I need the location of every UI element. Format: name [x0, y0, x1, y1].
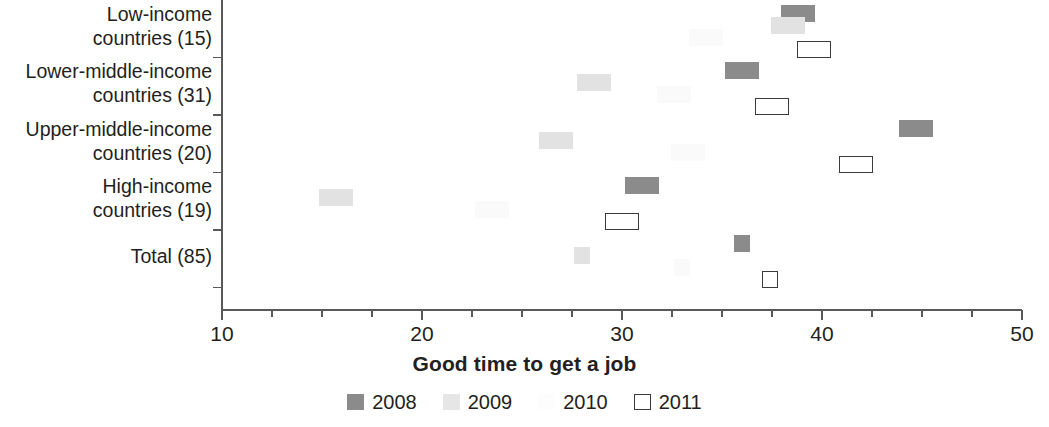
y-axis-tick: [213, 114, 222, 116]
category-label-line: countries (20): [0, 141, 212, 165]
x-axis-major-tick: [821, 310, 822, 320]
x-axis-minor-tick: [771, 310, 772, 317]
y-axis-tick: [213, 57, 222, 59]
legend-label: 2010: [563, 392, 608, 412]
category-label: High-incomecountries (19): [0, 174, 212, 222]
data-point-2008: [734, 235, 750, 252]
x-axis-tick-label: 50: [1010, 322, 1033, 346]
category-label: Total (85): [0, 244, 212, 268]
data-point-2009: [319, 189, 353, 206]
data-point-2010: [671, 144, 705, 161]
data-point-2009: [577, 74, 611, 91]
y-axis-tick: [213, 229, 222, 231]
category-label-line: countries (19): [0, 198, 212, 222]
data-point-2008: [725, 62, 759, 79]
data-point-2010: [475, 201, 509, 218]
legend-label: 2009: [468, 392, 513, 412]
data-point-2011: [762, 271, 778, 288]
data-point-2009: [574, 247, 590, 264]
data-point-2011: [839, 156, 873, 173]
legend-swatch-icon: [538, 394, 555, 410]
data-point-2011: [755, 98, 789, 115]
category-label-line: countries (15): [0, 26, 212, 50]
legend-label: 2011: [659, 392, 702, 412]
legend-item-2011[interactable]: 2011: [634, 392, 702, 412]
x-axis-tick-label: 30: [610, 322, 633, 346]
category-label-line: Lower-middle-income: [0, 59, 212, 83]
x-axis-major-tick: [221, 310, 222, 320]
x-axis-minor-tick: [571, 310, 572, 317]
data-point-2011: [797, 41, 831, 58]
x-axis-tick-label: 20: [410, 322, 433, 346]
x-axis-minor-tick: [971, 310, 972, 317]
legend-swatch-icon: [634, 394, 651, 410]
category-label: Low-incomecountries (15): [0, 2, 212, 50]
category-label-line: Upper-middle-income: [0, 117, 212, 141]
x-axis-major-tick: [621, 310, 622, 320]
x-axis-minor-tick: [471, 310, 472, 317]
y-axis-tick: [213, 172, 222, 174]
category-label: Upper-middle-incomecountries (20): [0, 117, 212, 165]
legend-swatch-icon: [347, 394, 364, 410]
data-point-2011: [605, 213, 639, 230]
x-axis-minor-tick: [721, 310, 722, 317]
data-point-2008: [899, 120, 933, 137]
data-point-2010: [674, 259, 690, 276]
chart-container: Low-incomecountries (15)Lower-middle-inc…: [0, 0, 1049, 427]
x-axis-minor-tick: [521, 310, 522, 317]
x-axis-minor-tick: [371, 310, 372, 317]
data-point-2009: [539, 132, 573, 149]
x-axis-major-tick: [421, 310, 422, 320]
legend-item-2009[interactable]: 2009: [443, 392, 513, 412]
chart-legend: 2008200920102011: [0, 392, 1049, 412]
x-axis-minor-tick: [871, 310, 872, 317]
x-axis-minor-tick: [671, 310, 672, 317]
legend-swatch-icon: [443, 394, 460, 410]
data-point-2008: [625, 177, 659, 194]
legend-item-2010[interactable]: 2010: [538, 392, 608, 412]
x-axis-minor-tick: [321, 310, 322, 317]
category-label-line: Low-income: [0, 2, 212, 26]
category-label: Lower-middle-incomecountries (31): [0, 59, 212, 107]
category-label-line: High-income: [0, 174, 212, 198]
x-axis-title: Good time to get a job: [0, 352, 1049, 376]
x-axis-tick-label: 40: [810, 322, 833, 346]
x-axis-minor-tick: [271, 310, 272, 317]
category-label-line: Total (85): [0, 244, 212, 268]
x-axis-tick-label: 10: [210, 322, 233, 346]
data-point-2010: [657, 86, 691, 103]
y-axis-tick: [213, 287, 222, 289]
legend-label: 2008: [372, 392, 417, 412]
category-label-line: countries (31): [0, 83, 212, 107]
x-axis-major-tick: [1021, 310, 1022, 320]
plot-area: [222, 0, 1022, 310]
x-axis-minor-tick: [921, 310, 922, 317]
data-point-2009: [771, 17, 805, 34]
data-point-2010: [689, 29, 723, 46]
legend-item-2008[interactable]: 2008: [347, 392, 417, 412]
